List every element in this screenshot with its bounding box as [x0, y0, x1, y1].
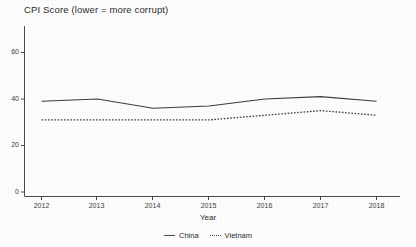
x-tick-label-2015: 2015 [189, 202, 229, 209]
y-tick-label-60: 60 [3, 48, 19, 55]
chart-legend: China Vietnam [0, 231, 416, 240]
x-tick-label-2018: 2018 [357, 202, 397, 209]
y-tick-label-20: 20 [3, 141, 19, 148]
legend-swatch-dotted-icon [210, 235, 221, 236]
chart-figure: CPI Score (lower = more corrupt) 60 40 2… [0, 0, 416, 247]
x-axis-title: Year [0, 213, 416, 222]
x-tick-label-2014: 2014 [133, 202, 173, 209]
plot-area [0, 0, 416, 247]
series-line-vietnam [42, 111, 377, 120]
legend-item-china[interactable]: China [164, 231, 199, 240]
series-line-china [42, 97, 377, 109]
x-tick-label-2016: 2016 [245, 202, 285, 209]
y-tick-label-0: 0 [3, 188, 19, 195]
legend-label-china: China [179, 231, 199, 240]
legend-item-vietnam[interactable]: Vietnam [210, 231, 252, 240]
x-tick-label-2017: 2017 [301, 202, 341, 209]
legend-label-vietnam: Vietnam [225, 231, 252, 240]
legend-swatch-solid-icon [164, 235, 175, 236]
x-tick-label-2013: 2013 [77, 202, 117, 209]
x-tick-label-2012: 2012 [22, 202, 62, 209]
y-tick-label-40: 40 [3, 95, 19, 102]
